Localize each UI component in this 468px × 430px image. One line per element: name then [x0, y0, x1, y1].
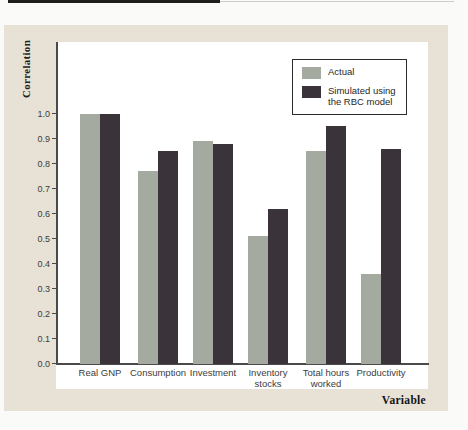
y-tick-0-7: [52, 188, 56, 189]
bar-simulated-investment: [213, 144, 233, 364]
y-axis-line: [56, 42, 58, 364]
y-tick-0-8: [52, 163, 56, 164]
y-tick-label-0-6: 0.6: [26, 209, 50, 219]
y-tick-label-0-7: 0.7: [26, 184, 50, 194]
y-tick-0-0: [52, 363, 56, 364]
x-category-inventory-stocks: Inventory stocks: [235, 367, 301, 390]
y-tick-0-2: [52, 313, 56, 314]
y-tick-0-9: [52, 138, 56, 139]
y-tick-0-4: [52, 263, 56, 264]
y-tick-label-0-0: 0.0: [26, 359, 50, 369]
y-tick-0-6: [52, 213, 56, 214]
y-tick-label-1-0: 1.0: [26, 109, 50, 119]
x-category-real-gnp: Real GNP: [67, 367, 133, 378]
y-tick-0-1: [52, 338, 56, 339]
bar-actual-real-gnp: [80, 114, 100, 364]
bar-simulated-inventory-stocks: [268, 209, 288, 364]
legend-label-actual: Actual: [328, 66, 354, 77]
bar-simulated-productivity: [381, 149, 401, 364]
top-rule-dark: [8, 0, 220, 3]
y-tick-label-0-8: 0.8: [26, 159, 50, 169]
legend-swatch-actual: [302, 67, 321, 79]
bar-simulated-real-gnp: [100, 114, 120, 364]
bar-actual-inventory-stocks: [248, 236, 268, 364]
x-category-productivity: Productivity: [348, 367, 414, 378]
legend-item-actual: Actual: [302, 66, 402, 79]
y-tick-label-0-1: 0.1: [26, 334, 50, 344]
bar-actual-consumption: [138, 171, 158, 364]
y-tick-label-0-5: 0.5: [26, 234, 50, 244]
x-axis-title: Variable: [330, 394, 426, 406]
y-tick-label-0-2: 0.2: [26, 309, 50, 319]
figure-page: Correlation Variable Actual Simulated us…: [0, 0, 468, 430]
y-tick-label-0-4: 0.4: [26, 259, 50, 269]
bar-actual-productivity: [361, 274, 381, 364]
bar-simulated-total-hours-worked: [326, 126, 346, 364]
y-axis-title: Correlation: [20, 40, 32, 98]
bar-simulated-consumption: [158, 151, 178, 364]
y-tick-label-0-9: 0.9: [26, 134, 50, 144]
top-rule-light: [220, 1, 454, 2]
y-tick-0-5: [52, 238, 56, 239]
y-tick-0-3: [52, 288, 56, 289]
y-tick-label-0-3: 0.3: [26, 284, 50, 294]
bar-actual-total-hours-worked: [306, 151, 326, 364]
y-tick-1-0: [52, 113, 56, 114]
bar-actual-investment: [193, 141, 213, 364]
legend: Actual Simulated using the RBC model: [292, 59, 407, 115]
legend-item-simulated: Simulated using the RBC model: [302, 85, 402, 108]
legend-swatch-simulated: [302, 86, 321, 98]
legend-label-simulated: Simulated using the RBC model: [328, 85, 402, 108]
